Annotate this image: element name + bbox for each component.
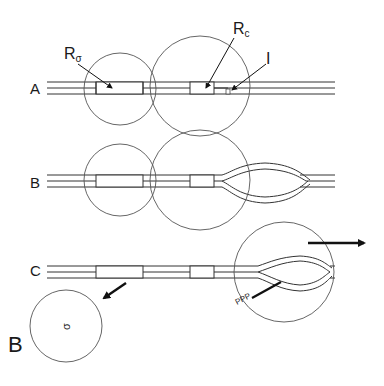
diagram-canvas: A Rσ Rc I B bbox=[0, 0, 384, 386]
r-sigma-label: Rσ bbox=[64, 45, 83, 64]
r-sigma-pointer bbox=[78, 64, 112, 88]
row-label-b: B bbox=[30, 174, 40, 191]
i-site bbox=[226, 89, 230, 94]
ppp-pointer bbox=[252, 282, 281, 298]
row-b: B bbox=[30, 130, 335, 230]
release-arrow bbox=[104, 283, 126, 298]
bubble-upper-outer bbox=[222, 163, 310, 180]
row-label-c: C bbox=[30, 262, 41, 279]
sigma-circle-label: σ bbox=[60, 323, 72, 330]
row-label-a: A bbox=[30, 80, 40, 97]
i-pointer bbox=[232, 64, 266, 90]
rc-segment bbox=[190, 82, 214, 94]
rc-pointer bbox=[206, 38, 234, 88]
bubble-upper-inner bbox=[222, 169, 306, 181]
ppp-label: PPP bbox=[234, 291, 252, 306]
row-a: A Rσ Rc I bbox=[30, 20, 335, 136]
row-c: C PPP σ bbox=[30, 222, 364, 362]
r-sigma-segment bbox=[96, 82, 143, 94]
i-label: I bbox=[266, 50, 270, 67]
panel-label: B bbox=[8, 332, 23, 357]
rc-label: Rc bbox=[233, 20, 250, 39]
